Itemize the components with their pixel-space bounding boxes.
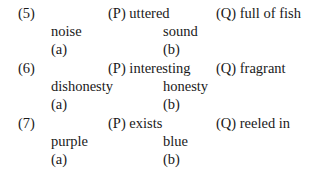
label-b: (b) [163,152,180,167]
word-b: blue [163,134,188,149]
option-q: (Q) reeled in [216,116,290,131]
option-p: (P) exists [108,116,162,131]
option-p: (P) uttered [108,6,170,21]
question-number: (7) [18,116,35,131]
option-q: (Q) fragrant [216,61,286,76]
word-a: noise [51,24,82,39]
question-number: (6) [18,61,35,76]
word-a: dishonesty [51,79,113,94]
word-a: purple [51,134,88,149]
label-a: (a) [51,152,67,167]
label-b: (b) [163,42,180,57]
label-a: (a) [51,42,67,57]
option-q: (Q) full of fish [216,6,301,21]
option-p: (P) interesting [108,61,191,76]
label-b: (b) [163,97,180,112]
question-number: (5) [18,6,35,21]
word-b: sound [163,24,198,39]
word-b: honesty [163,79,208,94]
label-a: (a) [51,97,67,112]
